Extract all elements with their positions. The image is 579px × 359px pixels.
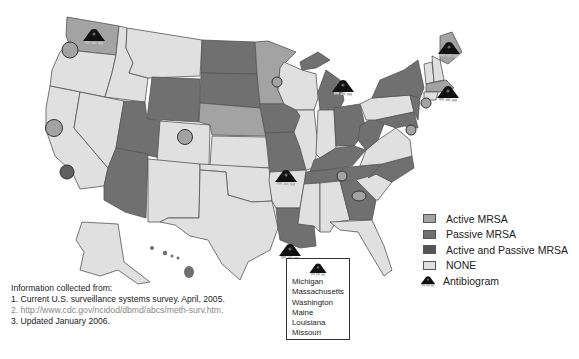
passive-mrsa-swatch [423,230,436,239]
list-item: Massachusetts [292,287,349,297]
source-heading: Information collected from: [11,283,225,294]
state-hawaii [150,246,194,278]
legend-label: NONE [446,259,476,271]
legend-item-passive-mrsa: Passive MRSA [423,227,568,242]
state-kansas [210,136,269,168]
legend-label: Active and Passive MRSA [446,244,568,256]
map-legend: Active MRSA Passive MRSA Active and Pass… [423,211,568,289]
none-swatch [423,261,436,270]
antibiogram-icon [306,262,330,276]
state-south-dakota [200,73,260,108]
legend-item-antibiogram: Antibiogram [423,273,568,288]
list-item: Missouri [292,328,349,338]
state-alaska [76,222,150,284]
list-item: Louisiana [292,318,349,328]
antibiogram-state-list: Michigan Massachusetts Washington Maine … [287,277,349,339]
list-item: Michigan [292,277,349,287]
active-and-passive-mrsa-swatch [423,245,436,254]
active-mrsa-swatch [423,214,436,223]
state-north-dakota [201,40,257,74]
state-wisconsin [278,62,318,110]
antibiogram-states-box: Michigan Massachusetts Washington Maine … [286,258,350,340]
legend-label: Passive MRSA [446,228,516,240]
legend-item-active-mrsa: Active MRSA [423,211,568,226]
state-new-york [372,60,424,98]
state-montana [126,28,202,78]
legend-item-active-and-passive-mrsa: Active and Passive MRSA [423,242,568,257]
state-new-mexico [148,159,200,222]
legend-label: Antibiogram [443,275,499,287]
antibiogram-icon [419,275,437,287]
list-item: Washington [292,298,349,308]
legend-label: Active MRSA [446,213,508,225]
source-notes: Information collected from: 1. Current U… [11,283,225,327]
list-item: Maine [292,308,349,318]
state-wyoming [147,77,200,122]
source-line: 3. Updated January 2006. [11,316,225,327]
legend-item-none: NONE [423,258,568,273]
source-link[interactable]: 2. http://www.cdc.gov/ncidod/dbmd/abcs/m… [11,305,225,316]
source-line: 1. Current U.S. surveillance systems sur… [11,294,225,305]
active-marker-dark [60,165,74,179]
